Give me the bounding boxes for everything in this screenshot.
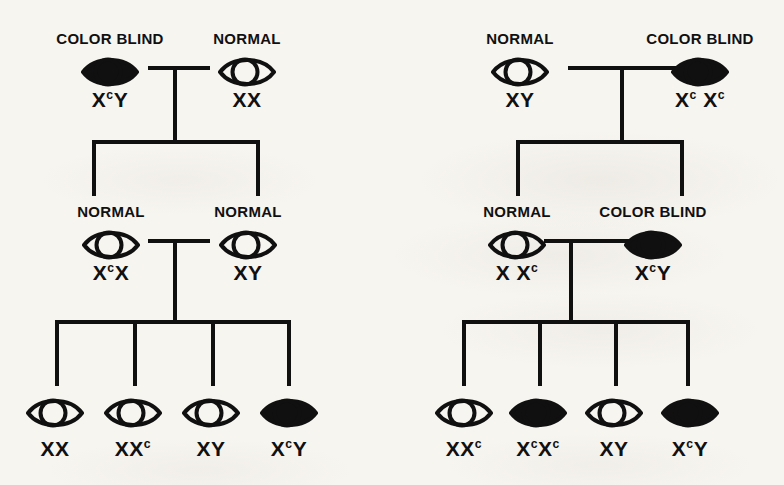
filled-eye-icon-color-blind-father-in-law — [624, 228, 682, 262]
genotype-label-color-blind-father: XcY — [92, 88, 128, 112]
genotype-label-color-blind-father-in-law: XcY — [635, 261, 671, 285]
phenotype-label-normal-mother: NORMAL — [213, 30, 281, 47]
marriage-line-p-right — [568, 66, 684, 70]
sibship-drop-f2-right-3 — [614, 320, 618, 386]
genotype-label-carrier-daughter: XXc — [446, 437, 482, 461]
sibship-drop-f2-left-1 — [55, 320, 59, 386]
sibship-drop-f2-left-3 — [211, 320, 215, 386]
phenotype-label-normal-carrier-daughter: NORMAL — [483, 203, 551, 220]
sibship-drop-f1-right-1 — [516, 140, 520, 196]
phenotype-label-normal-father: NORMAL — [486, 30, 554, 47]
descent-line-p-left — [173, 66, 177, 142]
phenotype-label-normal-carrier-daughter: NORMAL — [77, 203, 145, 220]
filled-eye-icon-color-blind-son — [260, 396, 318, 430]
sibship-drop-f2-left-2 — [133, 320, 137, 386]
open-eye-icon-carrier-daughter — [104, 396, 162, 430]
sibship-bar-f1-left — [92, 140, 260, 144]
open-eye-icon-normal-carrier-daughter — [82, 228, 140, 262]
open-eye-icon-normal-mother — [218, 55, 276, 89]
open-eye-icon-normal-son — [182, 396, 240, 430]
genotype-label-normal-father: XY — [505, 88, 534, 112]
marriage-line-f1-left — [148, 239, 210, 243]
filled-eye-icon-color-blind-daughter — [509, 396, 567, 430]
open-eye-icon-carrier-daughter — [435, 396, 493, 430]
phenotype-label-color-blind-father-in-law: COLOR BLIND — [599, 203, 706, 220]
sibship-drop-f1-right-2 — [680, 140, 684, 196]
filled-eye-icon-color-blind-mother — [671, 55, 729, 89]
genotype-label-color-blind-daughter: XcXc — [516, 437, 560, 461]
sibship-bar-f1-right — [516, 140, 684, 144]
genotype-label-normal-carrier-daughter: X Xc — [496, 261, 539, 285]
phenotype-label-color-blind-mother: COLOR BLIND — [646, 30, 753, 47]
open-eye-icon-normal-daughter — [26, 396, 84, 430]
phenotype-label-normal-father-in-law: NORMAL — [214, 203, 282, 220]
sibship-drop-f2-right-2 — [538, 320, 542, 386]
genotype-label-normal-carrier-daughter: XcX — [93, 261, 129, 285]
genotype-label-carrier-daughter: XXc — [115, 437, 151, 461]
open-eye-icon-normal-father-in-law — [219, 228, 277, 262]
sibship-drop-f2-right-4 — [686, 320, 690, 386]
open-eye-icon-normal-carrier-daughter — [488, 228, 546, 262]
genotype-label-normal-father-in-law: XY — [233, 261, 262, 285]
sibship-drop-f2-right-1 — [462, 320, 466, 386]
sibship-drop-f1-left-1 — [92, 140, 96, 196]
genotype-label-color-blind-son: XcY — [271, 437, 307, 461]
phenotype-label-color-blind-father: COLOR BLIND — [56, 30, 163, 47]
marriage-line-p-left — [148, 66, 210, 70]
descent-line-f1-right — [569, 239, 573, 324]
pedigree-diagram: COLOR BLINDXcYNORMALXXNORMALXcXNORMALXYX… — [0, 0, 784, 485]
genotype-label-normal-son: XY — [196, 437, 225, 461]
filled-eye-icon-color-blind-father — [81, 55, 139, 89]
open-eye-icon-normal-father — [491, 55, 549, 89]
sibship-drop-f2-left-4 — [287, 320, 291, 386]
genotype-label-color-blind-mother: Xc Xc — [675, 88, 725, 112]
sibship-bar-f2-right — [462, 320, 690, 324]
filled-eye-icon-color-blind-son — [661, 396, 719, 430]
descent-line-p-right — [620, 66, 624, 142]
genotype-label-normal-daughter: XX — [40, 437, 69, 461]
genotype-label-normal-son: XY — [599, 437, 628, 461]
genotype-label-color-blind-son: XcY — [672, 437, 708, 461]
open-eye-icon-normal-son — [585, 396, 643, 430]
genotype-label-normal-mother: XX — [232, 88, 261, 112]
sibship-drop-f1-left-2 — [256, 140, 260, 196]
descent-line-f1-left — [173, 239, 177, 324]
sibship-bar-f2-left — [55, 320, 291, 324]
